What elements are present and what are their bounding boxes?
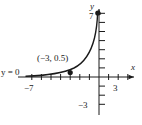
exponential-graph-figure: y = 0 (−3, 0.5) −7 3 7 −3 x y	[0, 0, 142, 125]
exponential-curve	[26, 14, 98, 77]
plot-canvas	[0, 0, 142, 125]
y-axis-ticks	[99, 13, 105, 104]
curve-endpoint-dot	[95, 10, 100, 15]
x-tick-label-neg7: −7	[24, 84, 34, 93]
x-tick-label-3: 3	[113, 84, 118, 93]
point-coordinate-label: (−3, 0.5)	[37, 54, 68, 63]
y-axis-label: y	[90, 2, 94, 11]
x-axis-label: x	[131, 63, 135, 72]
y-tick-label-neg3: −3	[78, 101, 88, 110]
x-axis-arrow-icon	[129, 75, 135, 79]
marked-point-dot	[68, 70, 73, 75]
y-tick-label-7: 7	[89, 12, 94, 21]
asymptote-label: y = 0	[1, 68, 20, 77]
